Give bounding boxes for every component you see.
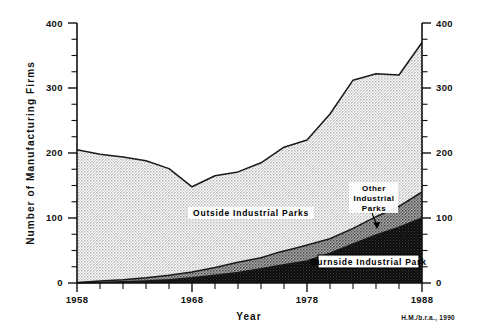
other-industrial-parks-label-line2: Industrial: [353, 194, 394, 203]
burnside-industrial-park-label-group: Burnside Industrial Park: [310, 255, 426, 268]
burnside-industrial-park-label: Burnside Industrial Park: [310, 257, 426, 267]
x-tick-label-1968: 1968: [181, 294, 204, 305]
chart-container: 0 100 200 300 400 0 100 200 300 400 1958…: [0, 0, 483, 336]
outside-industrial-parks-label: Outside Industrial Parks: [193, 208, 309, 218]
x-tick-label-1988: 1988: [411, 294, 434, 305]
y-tick-label-100: 100: [46, 212, 63, 223]
outside-industrial-parks-label-group: Outside Industrial Parks: [188, 207, 314, 219]
y-right-tick-label-0: 0: [436, 277, 442, 288]
y-right-tick-label-200: 200: [436, 147, 453, 158]
other-industrial-parks-label-line1: Other: [362, 184, 386, 193]
y-right-tick-label-400: 400: [436, 18, 453, 29]
x-axis-title: Year: [236, 311, 262, 322]
other-industrial-parks-label-line3: Parks: [362, 204, 386, 213]
y-right-tick-label-100: 100: [436, 212, 453, 223]
y-right-tick-label-300: 300: [436, 82, 453, 93]
y-tick-label-400: 400: [46, 18, 63, 29]
y-tick-label-0: 0: [57, 277, 63, 288]
area-chart: 0 100 200 300 400 0 100 200 300 400 1958…: [0, 0, 483, 336]
y-tick-label-200: 200: [46, 147, 63, 158]
x-tick-label-1958: 1958: [66, 294, 89, 305]
x-tick-label-1978: 1978: [296, 294, 319, 305]
y-tick-label-300: 300: [46, 82, 63, 93]
credit-text: H.M./b.r.a., 1990: [401, 314, 455, 322]
y-axis-title: Number of Manufacturing Firms: [25, 61, 36, 245]
